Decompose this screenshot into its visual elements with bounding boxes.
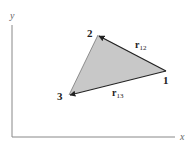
x-axis-label: x [179, 131, 185, 142]
vector-label-r13: r13 [112, 87, 124, 100]
triangle-diagram: y x 1 2 3 r12 r13 [0, 0, 196, 147]
point-label-2: 2 [87, 27, 93, 39]
vector-r12-subscript: 12 [139, 44, 147, 52]
y-axis-label: y [9, 10, 15, 21]
point-label-1: 1 [163, 74, 169, 86]
vector-r13-subscript: 13 [116, 92, 124, 100]
vector-label-r12: r12 [135, 39, 147, 52]
point-label-3: 3 [57, 90, 63, 102]
